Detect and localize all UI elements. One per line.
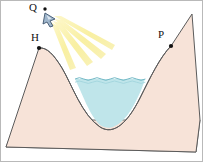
label-q: Q — [29, 2, 37, 13]
valley-scene-svg — [0, 0, 203, 162]
figure-canvas: Q H P — [0, 0, 203, 162]
point-marker-h — [37, 46, 41, 50]
label-p: P — [158, 29, 164, 40]
point-marker-p — [169, 44, 173, 48]
label-h: H — [31, 32, 39, 43]
light-ray-group — [51, 16, 115, 70]
point-marker-q — [43, 7, 46, 10]
